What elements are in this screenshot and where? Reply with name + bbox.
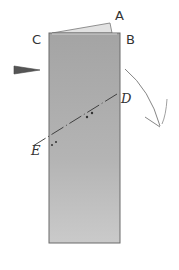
label-c: C: [32, 32, 41, 47]
back-flap: [52, 23, 112, 33]
label-a: A: [115, 8, 124, 23]
folding-diagram: A B C D E: [0, 0, 179, 270]
label-e: E: [30, 143, 41, 158]
label-d: D: [120, 91, 132, 106]
label-b: B: [126, 32, 135, 47]
pointer-arrow-icon: [14, 66, 40, 74]
paper-strip: [49, 33, 120, 243]
